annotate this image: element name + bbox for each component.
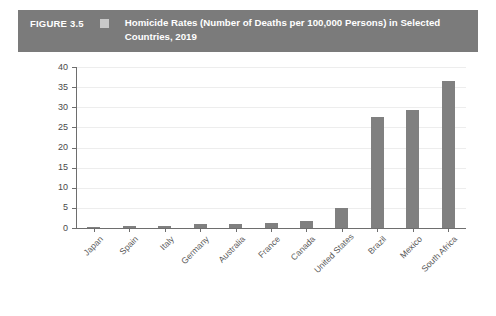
x-axis-tick-mark <box>377 229 378 232</box>
y-axis-tick-mark <box>72 148 76 149</box>
x-axis-tick-label: Germany <box>170 234 211 275</box>
y-axis-tick-mark <box>72 107 76 108</box>
y-axis-tick-label: 0 <box>28 224 68 233</box>
x-axis-tick-label: South Africa <box>418 234 459 275</box>
x-axis-tick-mark <box>129 229 130 232</box>
x-axis-tick-label: Italy <box>135 234 176 275</box>
x-axis-tick-mark <box>200 229 201 232</box>
figure-header-row: FIGURE 3.5 Homicide Rates (Number of Dea… <box>30 16 478 44</box>
y-axis-tick-mark <box>72 208 76 209</box>
x-axis-tick-mark <box>342 229 343 232</box>
y-axis-tick-label: 25 <box>28 123 68 132</box>
y-axis-tick-label: 40 <box>28 63 68 72</box>
x-axis-tick-mark <box>271 229 272 232</box>
y-axis-line <box>76 67 77 228</box>
y-axis-tick-label: 35 <box>28 83 68 92</box>
x-axis-tick-labels: JapanSpainItalyGermanyAustraliaFranceCan… <box>76 234 466 314</box>
x-axis-tick-label: Canada <box>277 234 318 275</box>
plot-area <box>76 67 466 228</box>
bar <box>371 117 384 228</box>
y-axis-tick-label: 30 <box>28 103 68 112</box>
bar <box>335 208 348 228</box>
x-axis-tick-label: Mexico <box>383 234 424 275</box>
bar-series <box>76 67 466 228</box>
x-axis-tick-label: Australia <box>206 234 247 275</box>
figure-header-band: FIGURE 3.5 Homicide Rates (Number of Dea… <box>18 10 478 52</box>
x-axis-tick-label: Japan <box>64 234 105 275</box>
x-axis-tick-label: United States <box>312 234 353 275</box>
x-axis-tick-mark <box>413 229 414 232</box>
x-axis-tick-mark <box>236 229 237 232</box>
bar <box>406 110 419 228</box>
x-axis-tick-mark <box>165 229 166 232</box>
y-axis-tick-mark <box>72 127 76 128</box>
y-axis-tick-mark <box>72 228 76 229</box>
y-axis-tick-mark <box>72 87 76 88</box>
y-axis-tick-mark <box>72 67 76 68</box>
figure-title: Homicide Rates (Number of Deaths per 100… <box>125 16 455 44</box>
x-axis-tick-mark <box>94 229 95 232</box>
legend-square-icon <box>100 19 109 28</box>
x-axis-tick-label: Spain <box>99 234 140 275</box>
bar <box>300 221 313 228</box>
figure-number-label: FIGURE 3.5 <box>30 16 84 30</box>
y-axis-tick-mark <box>72 168 76 169</box>
bar <box>442 81 455 228</box>
x-axis-tick-label: France <box>241 234 282 275</box>
y-axis-tick-label: 5 <box>28 203 68 212</box>
y-axis-tick-label: 20 <box>28 143 68 152</box>
y-axis-tick-label: 10 <box>28 183 68 192</box>
bar-chart: 0510152025303540 JapanSpainItalyGermanyA… <box>0 56 496 316</box>
y-axis-tick-mark <box>72 188 76 189</box>
x-axis-tick-mark <box>306 229 307 232</box>
x-axis-tick-mark <box>448 229 449 232</box>
y-axis-tick-label: 15 <box>28 163 68 172</box>
y-axis-tick-labels: 0510152025303540 <box>22 67 68 228</box>
